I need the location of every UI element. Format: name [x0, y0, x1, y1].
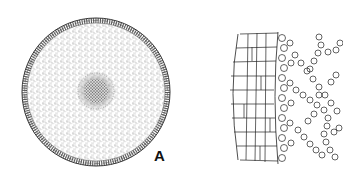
cross-section-drawing — [0, 0, 200, 179]
tissue-detail-drawing — [200, 0, 343, 179]
tissue-detail-panel-b — [200, 0, 343, 179]
cross-section-panel-a: A — [0, 0, 200, 179]
panel-label-a: A — [154, 147, 165, 164]
